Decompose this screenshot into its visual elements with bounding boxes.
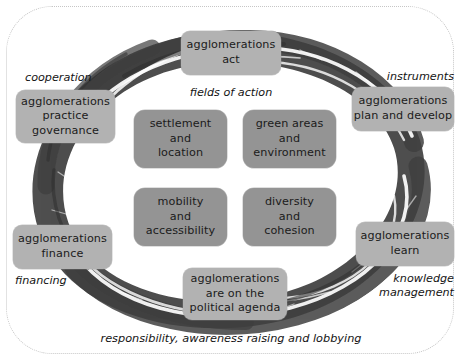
bottom-caption: responsibility, awareness raising and lo… xyxy=(0,332,462,345)
node-learn[interactable]: agglomerations learn xyxy=(356,222,454,266)
node-mobility-and-accessibility[interactable]: mobility and accessibility xyxy=(134,188,227,246)
node-political-agenda[interactable]: agglomerations are on the political agen… xyxy=(183,268,287,320)
node-practice-governance[interactable]: agglomerations practice governance xyxy=(16,90,115,143)
label-cooperation: cooperation xyxy=(25,71,135,85)
node-diversity-and-cohesion[interactable]: diversity and cohesion xyxy=(243,188,336,246)
node-green-areas-and-environment[interactable]: green areas and environment xyxy=(243,110,336,168)
label-instruments: instruments xyxy=(352,70,454,84)
node-plan-and-develop[interactable]: agglomerations plan and develop xyxy=(352,87,454,131)
node-finance[interactable]: agglomerations finance xyxy=(13,225,112,269)
node-settlement-and-location[interactable]: settlement and location xyxy=(134,110,227,168)
label-financing: financing xyxy=(15,274,125,288)
diagram-canvas: agglomerations act fields of action aggl… xyxy=(0,0,462,362)
node-act[interactable]: agglomerations act xyxy=(181,31,281,75)
label-fields-of-action: fields of action xyxy=(181,86,281,100)
label-knowledge-management: knowledge management xyxy=(352,272,454,301)
